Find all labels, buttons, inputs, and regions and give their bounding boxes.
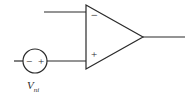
- source-label-subscript: ni: [34, 86, 39, 94]
- source-minus-symbol: −: [26, 55, 32, 67]
- source-label-main: V: [27, 79, 34, 91]
- inverting-input-symbol: −: [91, 8, 98, 22]
- noninverting-input-symbol: +: [91, 48, 97, 60]
- source-label: Vni: [27, 79, 39, 94]
- source-plus-symbol: +: [38, 55, 44, 67]
